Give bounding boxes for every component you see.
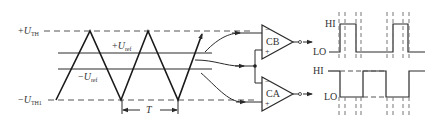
label-symbol: U [24,25,31,36]
ca-output-waveform [328,71,425,118]
label-symbol: U [84,71,91,82]
label-subscript: ref [91,77,98,83]
junction-to-cb [255,50,262,66]
middle-signal-curve [195,60,255,66]
cb-noninverting-sign: + [265,48,270,56]
ca-inverting-sign: − [265,78,270,86]
cb-output-waveform [329,12,425,58]
cb-output-node [299,41,302,44]
ca-high-label: HI [313,66,324,76]
cb-inverting-sign: − [265,26,270,34]
lower-threshold-label: −UTH1 [18,95,42,106]
junction-to-ca [255,66,262,83]
window-comparator-diagram [0,0,445,124]
ca-output-node [299,93,302,96]
label-subscript: TH [31,31,39,37]
minus-ref-label: −Uref [78,72,98,83]
label-subscript: ref [125,46,132,52]
upper-threshold-label: +UTH [18,26,39,37]
ca-low-label: LO [324,92,337,102]
period-label: T [146,105,152,115]
label-subscript: TH1 [31,100,42,106]
cb-low-label: LO [313,47,326,57]
plus-ref-label: +Uref [112,41,132,52]
label-symbol: U [24,94,31,105]
ca-noninverting-sign: + [265,100,270,108]
lower-signal-curve [201,73,262,102]
cb-high-label: HI [325,19,336,29]
comparator-ca-label: CA [266,89,280,99]
upper-signal-curve [205,33,262,52]
comparator-cb-label: CB [266,37,279,47]
label-symbol: U [118,40,125,51]
